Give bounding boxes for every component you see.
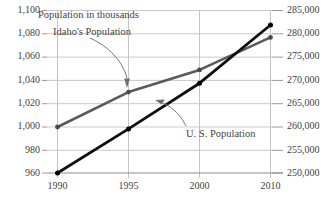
- y-axis-right-tick-285000: 285,000: [287, 5, 332, 15]
- y-axis-left-tick-1020: 1,020: [0, 98, 40, 108]
- y-axis-right-tick-250000: 250,000: [287, 168, 332, 178]
- marker-us-2010: [268, 23, 273, 28]
- x-axis-tick-1995: 1995: [108, 181, 149, 191]
- x-axis-tick-2000: 2000: [179, 181, 220, 191]
- x-axis-tick-2010: 2010: [250, 181, 291, 191]
- axis-caption-population-in-thousands: Population in thousands: [38, 9, 139, 20]
- y-axis-left-tick-1060: 1,060: [0, 51, 40, 61]
- series-callout-us-population: U. S. Population: [186, 128, 255, 139]
- y-axis-right-tick-275000: 275,000: [287, 51, 332, 61]
- x-axis-tick-1990: 1990: [37, 181, 78, 191]
- marker-us-1995: [126, 126, 131, 131]
- left-axis-ticks: [42, 11, 47, 174]
- y-axis-left-tick-1100: 1,100: [0, 5, 40, 15]
- y-axis-left-tick-1040: 1,040: [0, 75, 40, 85]
- marker-idaho-1990: [55, 125, 60, 130]
- marker-us-1990: [55, 171, 60, 176]
- y-axis-left-tick-980: 980: [0, 145, 40, 155]
- y-axis-right-tick-265000: 265,000: [287, 98, 332, 108]
- series-markers-us: [55, 23, 273, 176]
- y-axis-left-tick-1000: 1,000: [0, 121, 40, 131]
- marker-idaho-2010: [268, 35, 273, 40]
- y-axis-left-tick-1080: 1,080: [0, 28, 40, 38]
- y-axis-right-tick-260000: 260,000: [287, 121, 332, 131]
- marker-idaho-1995: [126, 90, 131, 95]
- population-line-chart: 1,100 1,080 1,060 1,040 1,020 1,000 980 …: [0, 0, 332, 200]
- y-axis-right-tick-270000: 270,000: [287, 75, 332, 85]
- y-axis-right-tick-255000: 255,000: [287, 145, 332, 155]
- marker-idaho-2000: [197, 68, 202, 73]
- chart-plot-area: [0, 0, 332, 200]
- marker-us-2000: [197, 81, 202, 86]
- series-callout-idaho-population: Idaho's Population: [53, 26, 131, 37]
- y-axis-right-tick-280000: 280,000: [287, 28, 332, 38]
- y-axis-left-tick-960: 960: [0, 168, 40, 178]
- right-axis-ticks: [272, 11, 283, 174]
